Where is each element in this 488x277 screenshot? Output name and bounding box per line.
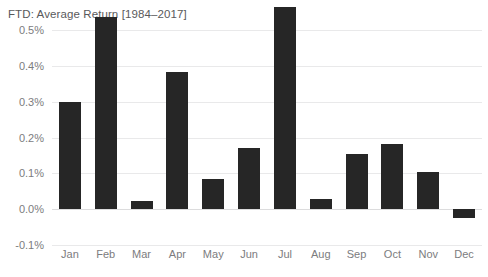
bar (238, 148, 260, 209)
zero-gridline (52, 209, 482, 210)
y-axis-tick-label: 0.0% (0, 203, 44, 215)
bar (310, 199, 332, 209)
bar (381, 144, 403, 210)
bar (131, 201, 153, 209)
x-axis-tick-label: Dec (442, 248, 486, 260)
y-axis-tick-label: -0.1% (0, 239, 44, 251)
bar (166, 72, 188, 209)
gridline (52, 245, 482, 246)
bar (453, 209, 475, 218)
bar (346, 154, 368, 210)
y-axis-tick-label: 0.1% (0, 167, 44, 179)
bar (417, 172, 439, 210)
y-axis-tick-label: 0.5% (0, 24, 44, 36)
y-axis-tick-label: 0.4% (0, 60, 44, 72)
bar (59, 102, 81, 210)
bar (202, 179, 224, 209)
x-axis: JanFebMarAprMayJunJulAugSepOctNovDec (52, 248, 482, 270)
y-axis-tick-label: 0.3% (0, 96, 44, 108)
bar (274, 7, 296, 209)
bar (95, 17, 117, 209)
bar-chart: FTD: Average Return [1984–2017] 0.5%0.4%… (0, 0, 488, 277)
y-axis-tick-label: 0.2% (0, 132, 44, 144)
plot-area (52, 30, 482, 245)
